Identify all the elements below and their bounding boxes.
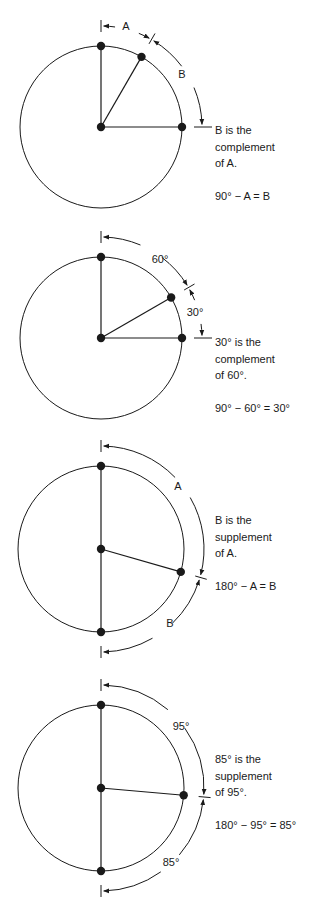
- panel-supplement-example: 95°85°: [18, 679, 211, 897]
- caption-equation: 180° − A = B: [215, 578, 276, 595]
- vertex-dot: [97, 545, 105, 553]
- caption-equation: 90° − A = B: [215, 188, 275, 205]
- vertex-dot: [97, 867, 105, 875]
- caption-line: B is the: [215, 512, 276, 529]
- caption-line: complement: [215, 351, 290, 368]
- vertex-dot: [178, 123, 186, 131]
- caption-supplement-general: B is the supplement of A. 180° − A = B: [215, 512, 276, 594]
- vertex-dot: [179, 791, 187, 799]
- arc-label-second: B: [178, 68, 185, 80]
- arc-label-first: A: [122, 20, 130, 32]
- dimension-arc: [154, 41, 182, 66]
- dimension-arc: [104, 446, 175, 477]
- vertex-dot: [97, 42, 105, 50]
- dimension-arc: [104, 26, 115, 27]
- caption-line: 30° is the: [215, 334, 290, 351]
- diagram-panels: AB60°30°AB95°85°: [18, 20, 212, 897]
- vertex-dot: [97, 123, 105, 131]
- dimension-arc: [173, 580, 200, 623]
- dimension-arc: [185, 728, 204, 794]
- arc-label-second: B: [166, 617, 173, 629]
- caption-line: B is the: [215, 122, 275, 139]
- arc-label-second: 30°: [187, 306, 204, 318]
- dimension-arc: [201, 324, 202, 335]
- vertex-dot: [97, 628, 105, 636]
- vertex-dot: [97, 253, 105, 261]
- dimension-arc: [104, 872, 161, 891]
- caption-line: supplement: [215, 768, 296, 785]
- arc-label-first: A: [174, 480, 182, 492]
- caption-line: complement: [215, 139, 275, 156]
- vertex-dot: [97, 701, 105, 709]
- vertex-dot: [177, 568, 185, 576]
- dimension-arc: [194, 88, 202, 125]
- vertex-dot: [178, 334, 186, 342]
- vertex-dot: [97, 784, 105, 792]
- caption-line: of 95°.: [215, 784, 296, 801]
- vertex-dot: [97, 462, 105, 470]
- caption-supplement-example: 85° is the supplement of 95°. 180° − 95°…: [215, 751, 296, 833]
- caption-equation: 90° − 60° = 30°: [215, 400, 290, 417]
- extension-tick-split: [199, 797, 211, 798]
- radius-line-angle: [101, 549, 181, 572]
- radius-line-angle: [101, 57, 142, 127]
- vertex-dot: [137, 53, 145, 61]
- caption-line: of A.: [215, 155, 275, 172]
- radius-line-angle: [101, 788, 184, 795]
- arc-label-first: 60°: [152, 253, 169, 265]
- arc-label-first: 95°: [173, 720, 190, 732]
- dimension-arc: [139, 33, 149, 38]
- dimension-arc: [190, 498, 204, 575]
- extension-tick-split: [184, 284, 194, 290]
- radius-line-angle: [101, 298, 171, 339]
- caption-line: 85° is the: [215, 751, 296, 768]
- caption-line: supplement: [215, 529, 276, 546]
- dimension-arc: [190, 290, 195, 300]
- dimension-arc: [104, 638, 153, 652]
- caption-equation: 180° − 95° = 85°: [215, 817, 296, 834]
- extension-tick-split: [149, 33, 155, 43]
- panel-supplement-general: AB: [18, 440, 207, 658]
- caption-complement-example: 30° is the complement of 60°. 90° − 60° …: [215, 334, 290, 416]
- vertex-dot: [97, 334, 105, 342]
- extension-tick-split: [195, 576, 207, 579]
- dimension-arc: [104, 237, 141, 245]
- caption-complement-general: B is the complement of A. 90° − A = B: [215, 122, 275, 204]
- panel-complement-example: 60°30°: [20, 231, 212, 419]
- dimension-arc: [179, 800, 203, 855]
- caption-line: of A.: [215, 545, 276, 562]
- panel-complement-general: AB: [20, 20, 212, 208]
- arc-label-second: 85°: [163, 856, 180, 868]
- vertex-dot: [167, 293, 175, 301]
- caption-line: of 60°.: [215, 367, 290, 384]
